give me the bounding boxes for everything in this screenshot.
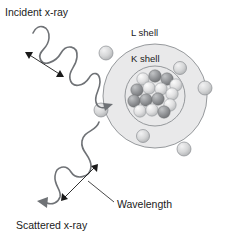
nucleon [134, 105, 146, 117]
scattered-xray-label: Scattered x-ray [16, 219, 88, 231]
nucleon [152, 93, 164, 105]
l-shell-label: L shell [131, 27, 158, 38]
incident-wavelength-arrow [25, 52, 64, 77]
nucleon [166, 88, 178, 100]
scattered-xray-wave [47, 122, 99, 204]
scattered-xray-arrowhead [37, 197, 48, 208]
electron-k-upper-right [174, 62, 187, 75]
incident-xray-wave [33, 27, 106, 108]
electron-k-lower [137, 130, 150, 143]
compton-scattering-diagram: Incident x-ray Scattered x-ray Wavelengt… [0, 0, 226, 238]
electron-l-lower-right [177, 142, 191, 156]
incident-xray-label: Incident x-ray [5, 6, 69, 18]
nucleon [149, 70, 161, 82]
k-shell-label: K shell [131, 53, 160, 64]
nucleon [146, 104, 158, 116]
nucleon [131, 84, 143, 96]
nucleon [158, 106, 170, 118]
electron-l-right [198, 81, 212, 95]
diagram-canvas: Incident x-ray Scattered x-ray Wavelengt… [0, 0, 226, 238]
nucleon [143, 82, 155, 94]
wavelength-leader-line [88, 181, 114, 202]
scattered-wavelength-arrow [61, 164, 98, 201]
electron-l-upper-left [99, 46, 113, 60]
wavelength-label: Wavelength [117, 198, 172, 210]
